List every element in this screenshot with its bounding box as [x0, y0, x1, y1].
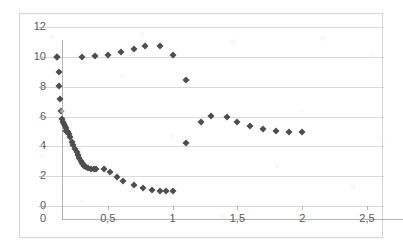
data-point	[139, 185, 146, 192]
data-point	[182, 76, 189, 83]
data-point	[299, 129, 306, 136]
scan-noise-speckle	[275, 164, 279, 168]
data-point	[117, 49, 124, 56]
data-point	[234, 118, 241, 125]
data-point	[148, 187, 155, 194]
scan-noise-speckle	[50, 34, 55, 39]
data-point	[91, 53, 98, 60]
data-point	[54, 53, 61, 60]
scan-noise-speckle	[140, 32, 144, 36]
data-point	[169, 51, 176, 58]
data-point	[130, 182, 137, 189]
scan-noise-speckle	[120, 74, 124, 78]
data-point	[208, 112, 215, 119]
scan-noise-speckle	[230, 39, 236, 45]
data-point	[55, 82, 62, 89]
data-point	[286, 128, 293, 135]
scan-noise-speckle	[80, 199, 84, 203]
data-point	[169, 188, 176, 195]
data-point	[223, 114, 230, 121]
data-point	[78, 53, 85, 60]
scan-noise-speckle	[40, 154, 44, 158]
data-point	[260, 126, 267, 133]
data-point	[247, 123, 254, 130]
scan-noise-speckle	[300, 109, 304, 113]
scan-noise-speckle	[320, 36, 325, 41]
data-point	[107, 169, 114, 176]
data-point	[55, 68, 62, 75]
data-point	[130, 45, 137, 52]
data-point	[198, 118, 205, 125]
data-point	[120, 178, 127, 185]
chart-frame: 024681012 00,511,522,5	[19, 13, 383, 238]
data-point	[182, 140, 189, 147]
data-point	[56, 96, 63, 103]
scan-noise-speckle	[350, 184, 356, 190]
data-point	[273, 128, 280, 135]
data-point	[163, 188, 170, 195]
scan-noise-speckle	[370, 54, 374, 58]
scan-noise-speckle	[170, 134, 175, 139]
scan-noise-speckle	[380, 134, 385, 139]
data-point	[156, 43, 163, 50]
data-point	[142, 42, 149, 49]
data-point	[104, 52, 111, 59]
scan-noise-speckle	[60, 109, 64, 113]
scan-noise-speckle	[220, 214, 225, 219]
scatter-plot-area	[20, 14, 382, 237]
